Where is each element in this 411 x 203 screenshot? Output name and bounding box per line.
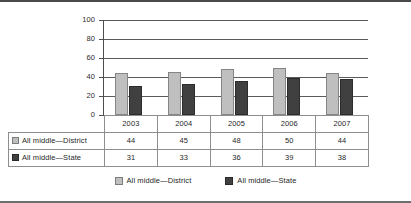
table-cell-2004-r1: 45 — [157, 133, 210, 150]
y-axis-tick-100: 100 — [82, 16, 95, 24]
y-axis-tick-80: 80 — [86, 35, 95, 43]
legend-swatch-icon — [115, 177, 123, 185]
bar-group-2004 — [157, 20, 210, 115]
bar-groups — [104, 20, 368, 115]
bar-2003-series1 — [115, 73, 128, 115]
bar-group-2005 — [210, 20, 263, 115]
series-swatch-icon — [12, 137, 19, 144]
legend-label: All middle—District — [127, 176, 192, 185]
table-cell-2005-r1: 48 — [210, 133, 263, 150]
bar-2007-series1 — [326, 73, 339, 115]
table-row-label-1: All middle—District — [9, 133, 105, 150]
chart-frame: 020406080100 20032004200520062007All mid… — [0, 0, 411, 203]
bar-group-2007 — [315, 20, 368, 115]
table-header-2003: 2003 — [105, 116, 158, 133]
legend-swatch-icon — [225, 177, 233, 185]
table-corner-cell — [9, 116, 105, 133]
bar-group-2006 — [262, 20, 315, 115]
y-tick-mark — [99, 39, 104, 40]
data-table: 20032004200520062007All middle—District4… — [8, 115, 369, 167]
bar-2004-series2 — [182, 84, 195, 115]
table-cell-2004-r2: 33 — [157, 150, 210, 167]
table-cell-2005-r2: 36 — [210, 150, 263, 167]
y-axis-tick-labels: 020406080100 — [68, 16, 99, 116]
plot-area: 020406080100 — [0, 2, 411, 122]
table-cell-2003-r1: 44 — [105, 133, 158, 150]
table-row: All middle—District4445485044 — [9, 133, 369, 150]
y-tick-mark — [99, 77, 104, 78]
bar-2005-series2 — [235, 81, 248, 115]
bar-2006-series2 — [287, 78, 300, 115]
y-tick-mark — [99, 96, 104, 97]
table-cell-2006-r2: 39 — [263, 150, 316, 167]
table-row-label-2: All middle—State — [9, 150, 105, 167]
table-header-2006: 2006 — [263, 116, 316, 133]
bar-2005-series1 — [221, 69, 234, 115]
table-cell-2003-r2: 31 — [105, 150, 158, 167]
table-row-label-text: All middle—District — [22, 136, 87, 145]
chart-legend: All middle—DistrictAll middle—State — [0, 176, 411, 185]
table-header-row: 20032004200520062007 — [9, 116, 369, 133]
table-cell-2006-r1: 50 — [263, 133, 316, 150]
table-header-2005: 2005 — [210, 116, 263, 133]
table-row-label-text: All middle—State — [22, 153, 81, 162]
y-tick-mark — [99, 58, 104, 59]
table-cell-2007-r1: 44 — [316, 133, 369, 150]
y-tick-mark — [99, 20, 104, 21]
data-table-body: 20032004200520062007All middle—District4… — [9, 116, 369, 167]
y-axis-tick-60: 60 — [86, 54, 95, 62]
legend-item-2: All middle—State — [225, 176, 296, 185]
bar-2007-series2 — [340, 79, 353, 115]
bar-2006-series1 — [273, 68, 286, 116]
legend-item-1: All middle—District — [115, 176, 192, 185]
y-axis-tick-40: 40 — [86, 73, 95, 81]
bar-2003-series2 — [129, 86, 142, 115]
legend-label: All middle—State — [237, 176, 296, 185]
bar-group-2003 — [104, 20, 157, 115]
bar-2004-series1 — [168, 72, 181, 115]
table-header-2004: 2004 — [157, 116, 210, 133]
table-cell-2007-r2: 38 — [316, 150, 369, 167]
series-swatch-icon — [12, 154, 19, 161]
table-row: All middle—State3133363938 — [9, 150, 369, 167]
table-header-2007: 2007 — [316, 116, 369, 133]
y-axis-tick-20: 20 — [86, 92, 95, 100]
